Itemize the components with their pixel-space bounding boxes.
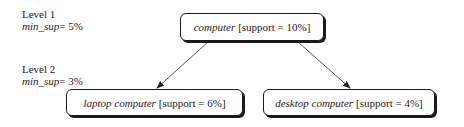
node-desktop-computer: desktop computer [support = 4%] [263, 89, 435, 116]
node-item: computer [194, 21, 236, 33]
node-support: [support = 4%] [356, 97, 423, 109]
node-item: desktop computer [275, 97, 353, 109]
node-computer: computer [support = 10%] [180, 13, 324, 41]
node-support: [support = 6%] [159, 97, 226, 109]
edge-root-to-desktop [298, 42, 350, 88]
node-laptop-computer: laptop computer [support = 6%] [66, 89, 243, 116]
edge-root-to-laptop [157, 42, 208, 88]
node-support: [support = 10%] [238, 21, 310, 33]
node-item: laptop computer [83, 97, 155, 109]
